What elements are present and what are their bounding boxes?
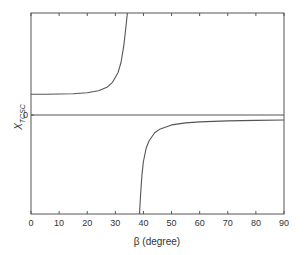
plot-area — [31, 13, 284, 214]
y-axis-label-subscript: TCSC — [19, 103, 26, 123]
axis-ticks — [31, 13, 284, 214]
plot-border — [31, 13, 284, 214]
x-tick-label: 20 — [82, 218, 92, 228]
series-line — [140, 120, 285, 214]
series-line — [31, 13, 127, 94]
x-tick-label: 80 — [251, 218, 261, 228]
x-tick-label: 30 — [110, 218, 120, 228]
data-series — [31, 13, 284, 214]
x-tick-label: 40 — [138, 218, 148, 228]
x-tick-label: 0 — [28, 218, 33, 228]
x-tick-label: 70 — [223, 218, 233, 228]
x-tick-label: 10 — [54, 218, 64, 228]
x-tick-labels: 0102030405060708090 — [28, 218, 289, 228]
y-axis-label: XTCSC — [13, 103, 26, 131]
x-tick-label: 50 — [167, 218, 177, 228]
x-axis-label: β (degree) — [134, 236, 180, 247]
chart: 0102030405060708090 0 β (degree) XTCSC — [0, 0, 305, 255]
x-tick-label: 90 — [279, 218, 289, 228]
x-tick-label: 60 — [195, 218, 205, 228]
